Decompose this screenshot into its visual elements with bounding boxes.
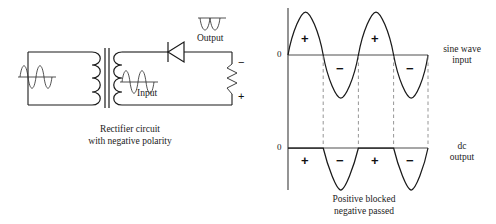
figure-root: .wire { stroke:#1a1a1a; stroke-width:1.1… — [0, 0, 496, 224]
load-resistor — [227, 52, 237, 105]
transformer-primary-coil — [92, 52, 100, 105]
waveform-caption-line2: negative passed — [288, 206, 440, 218]
top-marker-plus-1: + — [301, 32, 309, 45]
resistor-positive-mark: + — [238, 91, 244, 102]
bottom-marker-plus-2: + — [371, 154, 379, 167]
circuit-caption: Rectifier circuit with negative polarity — [60, 124, 200, 147]
zero-label-bottom: 0 — [277, 143, 282, 152]
figure-canvas: .wire { stroke:#1a1a1a; stroke-width:1.1… — [0, 0, 496, 224]
dc-output-line1: dc — [432, 141, 492, 152]
resistor-negative-mark: − — [238, 57, 244, 68]
bottom-marker-minus-2: − — [406, 154, 414, 167]
primary-loop-wires — [28, 52, 92, 105]
transformer-core — [105, 48, 109, 108]
zero-label-top: 0 — [277, 50, 282, 59]
bottom-marker-plus-1: + — [301, 154, 309, 167]
waveform-caption-line1: Positive blocked — [288, 194, 440, 206]
diode — [150, 42, 232, 62]
dc-output-label: dc output — [432, 141, 492, 163]
circuit-caption-line1: Rectifier circuit — [60, 124, 200, 136]
output-label: Output — [197, 33, 223, 44]
bottom-marker-minus-1: − — [336, 154, 344, 167]
waveform-caption: Positive blocked negative passed — [288, 194, 440, 217]
sine-wave-input-line1: sine wave — [432, 44, 492, 55]
output-waveform — [198, 18, 226, 30]
rectifier-circuit — [18, 18, 237, 108]
input-label: Input — [137, 88, 157, 99]
top-marker-minus-2: − — [406, 62, 414, 75]
sine-wave-input-label: sine wave input — [432, 44, 492, 66]
top-marker-plus-2: + — [371, 32, 379, 45]
sine-wave-input-line2: input — [432, 55, 492, 66]
top-marker-minus-1: − — [336, 62, 344, 75]
transformer-secondary-coil — [114, 52, 122, 105]
dc-output-line2: output — [432, 152, 492, 163]
circuit-caption-line2: with negative polarity — [60, 136, 200, 148]
primary-sine-waveform — [18, 66, 56, 89]
